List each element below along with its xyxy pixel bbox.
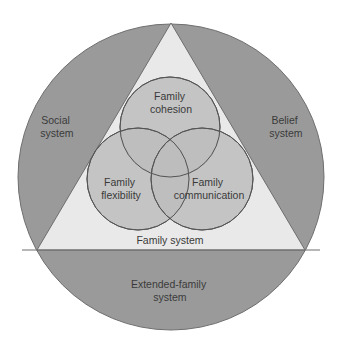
belief-system-label: Belief system <box>269 114 303 139</box>
family-system-label: Family system <box>136 234 203 246</box>
family-systems-diagram: Social system Belief system Extended-fam… <box>0 0 341 349</box>
family-flexibility-label: Family flexibility <box>101 176 141 201</box>
social-system-label: Social system <box>40 114 74 139</box>
family-cohesion-label: Family cohesion <box>150 90 192 115</box>
